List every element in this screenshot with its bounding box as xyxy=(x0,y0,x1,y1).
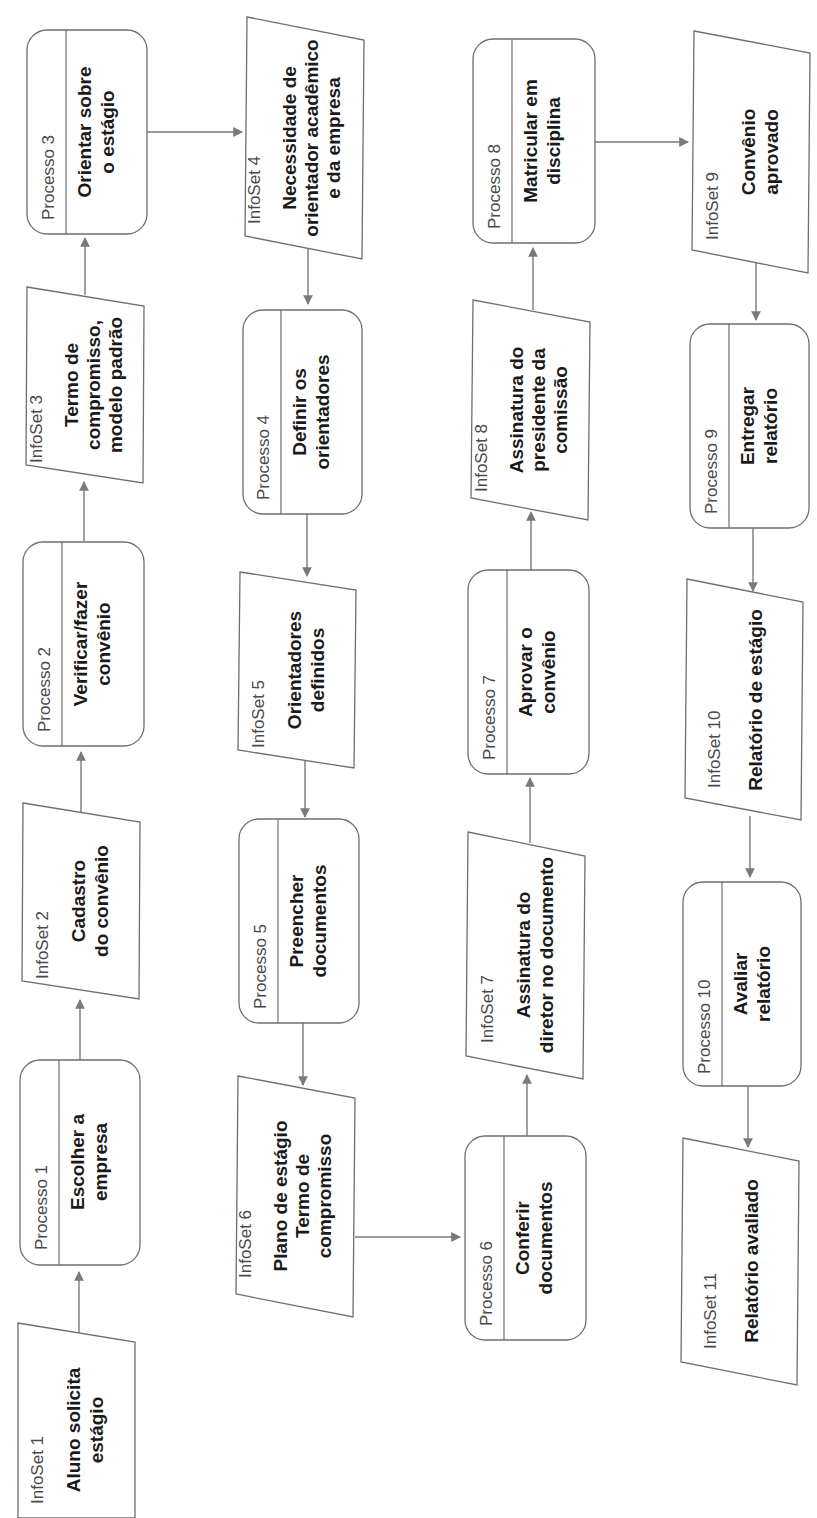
processo-1[interactable]: Processo 1 Escolher a empresa xyxy=(20,1060,140,1265)
infoset-2[interactable]: InfoSet 2 Cadastro do convênio xyxy=(22,803,140,999)
node-tag: InfoSet 9 xyxy=(703,172,722,240)
node-title-line: relatório xyxy=(760,388,781,464)
node-tag: InfoSet 11 xyxy=(701,1273,720,1349)
node-tag: InfoSet 8 xyxy=(472,424,491,492)
node-title-line: comissão xyxy=(550,366,571,454)
node-tag: Processo 7 xyxy=(480,675,499,760)
infoset-10[interactable]: InfoSet 10 Relatório de estágio xyxy=(685,579,803,820)
flowchart: InfoSet 1 Aluno solicita estágio Process… xyxy=(0,0,817,1518)
infoset-11[interactable]: InfoSet 11 Relatório avaliado xyxy=(681,1138,799,1385)
node-title-line: Definir os xyxy=(289,368,310,456)
processo-3[interactable]: Processo 3 Orientar sobre o estágio xyxy=(27,30,147,234)
infoset-8[interactable]: InfoSet 8 Assinatura do presidente da co… xyxy=(471,300,590,520)
processo-4[interactable]: Processo 4 Definir os orientadores xyxy=(243,310,362,514)
processo-8[interactable]: Processo 8 Matricular em disciplina xyxy=(473,39,595,243)
infoset-9[interactable]: InfoSet 9 Convênio aprovado xyxy=(692,31,810,273)
node-title-line: Relatório avaliado xyxy=(741,1179,762,1343)
node-title-line: modelo padrão xyxy=(105,317,126,453)
node-title-line: compromisso xyxy=(314,1134,335,1259)
infoset-3[interactable]: InfoSet 3 Termo de compromisso, modelo p… xyxy=(26,287,144,483)
node-tag: Processo 2 xyxy=(35,647,54,732)
node-title-line: Termo de xyxy=(292,1154,313,1238)
node-title-line: Assinatura do xyxy=(513,892,534,1019)
node-title-line: compromisso, xyxy=(83,320,104,450)
processo-10[interactable]: Processo 10 Avaliar relatório xyxy=(683,882,801,1086)
infoset-5[interactable]: InfoSet 5 Orientadores definidos xyxy=(238,572,356,768)
processo-7[interactable]: Processo 7 Aprovar o convênio xyxy=(468,570,589,774)
node-title-line: Plano de estágio xyxy=(270,1121,291,1272)
node-tag: Processo 10 xyxy=(695,980,714,1075)
edges xyxy=(79,132,756,1333)
node-title-line: Verificar/fazer xyxy=(70,581,91,706)
processo-2[interactable]: Processo 2 Verificar/fazer convênio xyxy=(23,542,144,746)
node-title-line: Aprovar o xyxy=(515,627,536,717)
node-tag: Processo 3 xyxy=(39,135,58,220)
node-title-line: relatório xyxy=(753,946,774,1022)
infoset-4[interactable]: InfoSet 4 Necessidade de orientador acad… xyxy=(245,17,364,259)
node-title-line: Entregar xyxy=(737,386,758,465)
infoset-shape xyxy=(681,1138,799,1385)
node-title-line: Orientadores xyxy=(284,611,305,729)
node-title-line: e da empresa xyxy=(323,77,344,199)
node-tag: Processo 4 xyxy=(254,415,273,500)
node-tag: InfoSet 2 xyxy=(33,911,52,979)
node-tag: InfoSet 6 xyxy=(236,1210,255,1278)
node-tag: Processo 5 xyxy=(251,924,270,1009)
node-tag: Processo 9 xyxy=(702,429,721,514)
node-title-line: aprovado xyxy=(761,109,782,195)
node-tag: InfoSet 7 xyxy=(478,975,497,1043)
node-title-line: Preencher xyxy=(286,874,307,968)
node-title-line: o estágio xyxy=(97,90,118,173)
infoset-7[interactable]: InfoSet 7 Assinatura do diretor no docum… xyxy=(466,832,585,1079)
node-title-line: Aluno solicita xyxy=(63,1367,84,1492)
processo-6[interactable]: Processo 6 Conferir documentos xyxy=(465,1136,586,1340)
node-tag: InfoSet 10 xyxy=(705,710,724,788)
node-title-line: presidente da xyxy=(528,348,549,472)
node-title-line: orientadores xyxy=(312,354,333,469)
node-title-line: documentos xyxy=(535,1182,556,1295)
node-title-line: diretor no documento xyxy=(536,857,557,1053)
node-title-line: Avaliar xyxy=(730,952,751,1015)
node-title-line: estágio xyxy=(86,1397,107,1464)
node-title-line: definidos xyxy=(307,628,328,712)
node-tag: Processo 8 xyxy=(485,144,504,229)
node-title-line: convênio xyxy=(538,630,559,713)
node-title-line: disciplina xyxy=(543,97,564,185)
node-title-line: orientador acadêmico xyxy=(301,39,322,236)
node-tag: InfoSet 3 xyxy=(27,395,46,463)
node-title-line: convênio xyxy=(93,602,114,685)
node-tag: Processo 6 xyxy=(477,1241,496,1326)
node-title-line: do convênio xyxy=(91,845,112,957)
node-title-line: Escolher a xyxy=(67,1114,88,1211)
node-tag: InfoSet 4 xyxy=(245,156,264,224)
node-title-line: Assinatura do xyxy=(506,347,527,474)
node-title-line: empresa xyxy=(90,1122,111,1201)
node-title-line: Convênio xyxy=(738,109,759,196)
node-title-line: Orientar sobre xyxy=(74,67,95,198)
infoset-6[interactable]: InfoSet 6 Plano de estágio Termo de comp… xyxy=(236,1076,355,1317)
node-title-line: Termo de xyxy=(61,343,82,427)
processo-9[interactable]: Processo 9 Entregar relatório xyxy=(690,324,809,528)
node-title-line: documentos xyxy=(309,865,330,978)
node-title-line: Necessidade de xyxy=(279,66,300,210)
node-title-line: Relatório de estágio xyxy=(745,609,766,791)
infoset-shape xyxy=(685,579,803,820)
node-tag: InfoSet 1 xyxy=(28,1436,47,1504)
node-title-line: Cadastro xyxy=(68,860,89,942)
infoset-1[interactable]: InfoSet 1 Aluno solicita estágio xyxy=(18,1323,135,1518)
node-tag: InfoSet 5 xyxy=(249,680,268,748)
node-tag: Processo 1 xyxy=(32,1165,51,1250)
node-title-line: Matricular em xyxy=(520,79,541,203)
processo-5[interactable]: Processo 5 Preencher documentos xyxy=(239,819,359,1023)
node-title-line: Conferir xyxy=(512,1200,533,1275)
